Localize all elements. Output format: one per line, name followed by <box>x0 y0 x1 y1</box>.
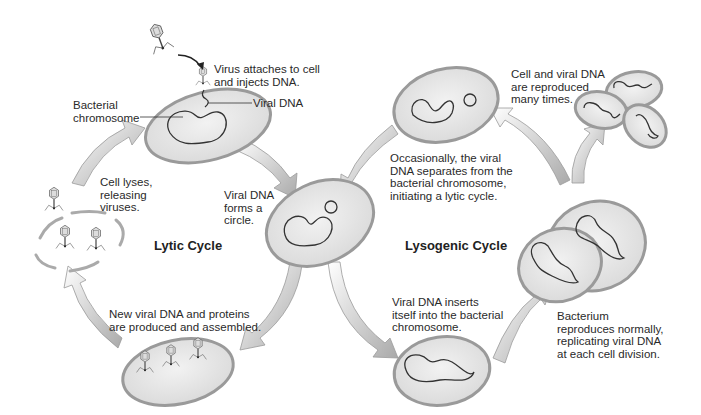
label-inserts: Viral DNA inserts itself into the bacter… <box>392 296 503 334</box>
label-occasionally: Occasionally, the viral DNA separates fr… <box>390 152 513 202</box>
label-virus-attaches: Virus attaches to cell and injects DNA. <box>214 63 320 88</box>
lysed-cell-fragments <box>36 212 123 272</box>
viral-replication-diagram: Virus attaches to cell and injects DNA. … <box>0 0 701 415</box>
lytic-cycle-title: Lytic Cycle <box>154 238 222 253</box>
label-reproduced: Cell and viral DNA are reproduced many t… <box>511 68 605 106</box>
label-bacterium-reproduces: Bacterium reproduces normally, replicati… <box>557 310 664 360</box>
label-forms-circle: Viral DNA forms a circle. <box>224 189 274 227</box>
lysogenic-cycle-title: Lysogenic Cycle <box>405 238 507 253</box>
label-viral-dna: Viral DNA <box>253 97 303 110</box>
label-cell-lyses: Cell lyses, releasing viruses. <box>100 176 152 214</box>
label-bacterial-chromosome: Bacterial chromosome <box>73 99 139 124</box>
label-new-viral-dna: New viral DNA and proteins are produced … <box>109 308 261 333</box>
attach-arrow <box>178 55 200 66</box>
cells <box>117 57 675 415</box>
